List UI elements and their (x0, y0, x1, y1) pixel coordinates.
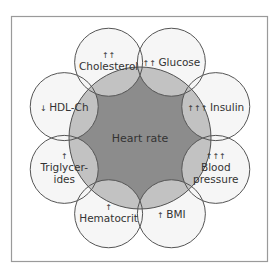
arrow-icon: ↓ (40, 104, 49, 113)
heart-rate-diagram: Heart rate ↑↑Cholesterol↑↑ Glucose↑↑↑ In… (0, 0, 280, 276)
center-label: Heart rate (112, 132, 169, 145)
arrow-icon: ↑↑ (142, 59, 158, 68)
arrow-icon: ↑↑↑ (206, 152, 226, 161)
arrow-icon: ↑ (61, 152, 68, 161)
arrow-icon: ↑↑↑ (187, 104, 210, 113)
arrow-icon: ↑↑ (102, 51, 115, 60)
arrow-icon: ↑ (105, 203, 112, 212)
arrow-icon: ↑ (157, 211, 166, 220)
